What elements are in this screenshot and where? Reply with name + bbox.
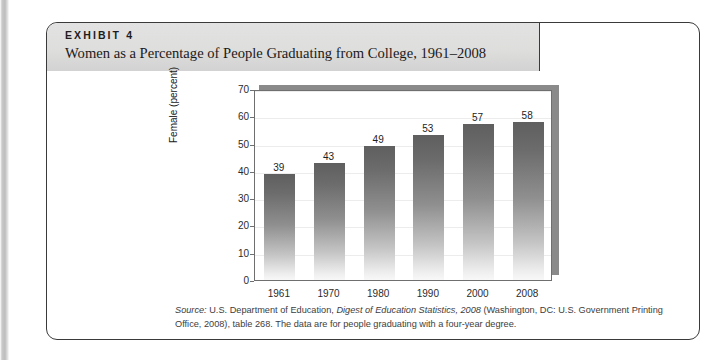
y-axis-tick-mark bbox=[250, 281, 254, 282]
y-axis-tick-label: 20 bbox=[227, 220, 249, 231]
y-axis-tick-label: 30 bbox=[227, 193, 249, 204]
gridline bbox=[255, 173, 551, 174]
gridline bbox=[255, 146, 551, 147]
exhibit-card: EXHIBIT 4 Women as a Percentage of Peopl… bbox=[46, 22, 700, 340]
bar bbox=[264, 174, 295, 280]
y-axis-tick-label: 60 bbox=[227, 111, 249, 122]
bar bbox=[314, 163, 345, 280]
gridline bbox=[255, 118, 551, 119]
y-axis-title: Female (percent) bbox=[168, 67, 179, 143]
plot-frame bbox=[254, 90, 552, 281]
page-gutter-strip bbox=[0, 0, 9, 360]
bar-value-label: 53 bbox=[412, 123, 443, 134]
source-label: Source: bbox=[175, 305, 207, 315]
bar-chart: Female (percent) 010203040506070 3943495… bbox=[162, 85, 582, 315]
gridline bbox=[255, 200, 551, 201]
y-axis-tick-label: 0 bbox=[227, 275, 249, 286]
bar bbox=[413, 135, 444, 280]
source-italic-title: Digest of Education Statistics, 2008 bbox=[336, 305, 481, 315]
exhibit-title: Women as a Percentage of People Graduati… bbox=[65, 45, 486, 62]
x-axis-tick-label: 2000 bbox=[455, 288, 501, 299]
bar-value-label: 43 bbox=[313, 151, 344, 162]
y-axis-tick-label: 70 bbox=[227, 84, 249, 95]
gridline bbox=[255, 227, 551, 228]
bar-value-label: 39 bbox=[263, 162, 294, 173]
bar bbox=[364, 146, 395, 280]
x-axis-tick-label: 1990 bbox=[405, 288, 451, 299]
exhibit-header-band: EXHIBIT 4 Women as a Percentage of Peopl… bbox=[47, 23, 540, 71]
exhibit-number-label: EXHIBIT 4 bbox=[65, 29, 134, 41]
bar-value-label: 57 bbox=[462, 112, 493, 123]
gridline bbox=[255, 91, 551, 92]
x-axis-tick-label: 2008 bbox=[504, 288, 550, 299]
bar bbox=[463, 124, 494, 280]
source-text-before: U.S. Department of Education, bbox=[207, 305, 337, 315]
bar bbox=[513, 122, 544, 280]
source-note: Source: U.S. Department of Education, Di… bbox=[175, 304, 670, 331]
y-axis-tick-label: 10 bbox=[227, 248, 249, 259]
bar-value-label: 58 bbox=[512, 110, 543, 121]
gridline bbox=[255, 255, 551, 256]
bar-value-label: 49 bbox=[363, 134, 394, 145]
x-axis-tick-label: 1980 bbox=[355, 288, 401, 299]
x-axis-tick-label: 1961 bbox=[256, 288, 302, 299]
y-axis-tick-label: 50 bbox=[227, 139, 249, 150]
y-axis-tick-label: 40 bbox=[227, 166, 249, 177]
x-axis-tick-label: 1970 bbox=[306, 288, 352, 299]
